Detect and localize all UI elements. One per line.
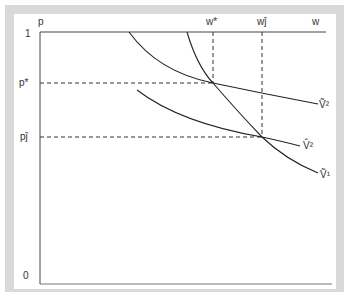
curve-v-tilde-2 [129, 32, 318, 104]
curve-v-tilde-1 [187, 32, 318, 173]
p-axis-label: p [38, 16, 44, 27]
curve-label-v-hat-2: V̂² [303, 138, 314, 151]
tick-label-w-star: w* [205, 16, 217, 27]
tick-label-w-j: wĵ [256, 16, 267, 27]
tick-label-p-j: pĵ [20, 131, 29, 142]
tick-label-zero: 0 [23, 270, 29, 281]
w-axis-label: w [311, 16, 320, 27]
tick-label-one: 1 [25, 28, 31, 39]
curve-v-hat-2 [137, 90, 300, 146]
tick-label-p-star: p* [19, 77, 29, 88]
diagram-svg: p w 1 0 p* pĵ w* wĵ Ṽ² V̂² Ṽ¹ [0, 0, 356, 305]
curve-label-v-tilde-1: Ṽ¹ [320, 168, 331, 180]
curve-label-v-tilde-2: Ṽ² [319, 98, 330, 110]
